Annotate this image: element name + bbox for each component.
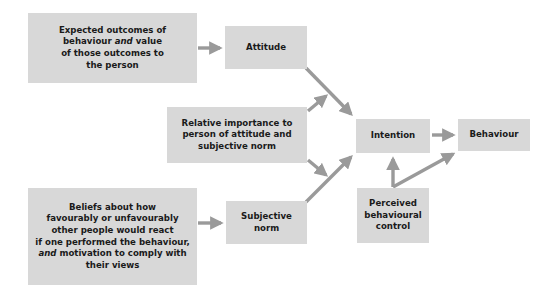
node-text: Expected outcomes of <box>59 25 166 37</box>
node-label: Intention <box>371 130 415 142</box>
node-text: behaviour and value <box>59 36 166 48</box>
node-text: Perceived <box>364 198 421 210</box>
node-expected-outcomes: Expected outcomes of behaviour and value… <box>28 13 197 83</box>
node-relative-importance: Relative importance to person of attitud… <box>167 107 307 163</box>
node-text: Subjective <box>241 211 292 223</box>
node-text: of those outcomes to <box>59 48 166 60</box>
node-attitude: Attitude <box>225 26 307 69</box>
node-subjective-norm: Subjective norm <box>226 201 307 244</box>
arrow-pbc-to-behaviour <box>393 154 453 187</box>
arrow-importance-to-attitude-link <box>308 96 326 111</box>
node-text: their views <box>35 260 189 272</box>
arrow-importance-to-norm-link <box>308 160 326 175</box>
node-text: if one performed the behaviour, <box>35 237 189 249</box>
node-text: Beliefs about how <box>35 202 189 214</box>
node-behaviour: Behaviour <box>458 119 530 151</box>
node-text: Relative importance to <box>182 118 293 130</box>
node-text: favourably or unfavourably <box>35 213 189 225</box>
node-label: Attitude <box>246 42 286 54</box>
node-intention: Intention <box>356 119 430 153</box>
node-text: the person <box>59 60 166 72</box>
node-text: person of attitude and <box>182 129 293 141</box>
node-beliefs: Beliefs about how favourably or unfavour… <box>28 188 197 285</box>
node-text: and motivation to comply with <box>35 248 189 260</box>
node-perceived-behavioural-control: Perceived behavioural control <box>357 188 429 243</box>
node-text: behavioural <box>364 210 421 222</box>
node-text: norm <box>241 223 292 235</box>
node-label: Behaviour <box>469 129 518 141</box>
node-text: control <box>364 221 421 233</box>
node-text: other people would react <box>35 225 189 237</box>
node-text: subjective norm <box>182 141 293 153</box>
